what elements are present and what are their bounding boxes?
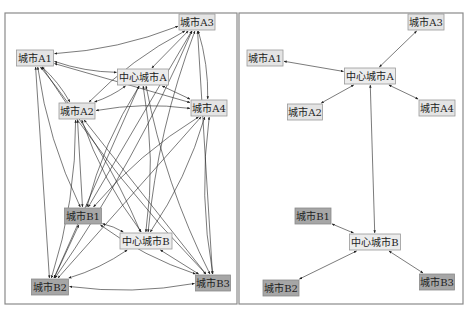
node-label: 城市A1 [248,52,282,64]
node-label: 城市A3 [409,16,443,28]
node-a2: 城市A2 [288,104,323,120]
edge-A3-B3 [198,31,213,274]
node-a1: 城市A1 [247,50,283,66]
node-label: 城市B3 [420,276,454,288]
edge-B1-B3 [100,225,195,274]
node-label: 城市A4 [420,102,454,114]
node-label: 城市B1 [296,210,330,222]
node-label: 城市B2 [33,281,67,293]
node-b2: 城市B2 [263,280,299,296]
edge-CA-A2 [94,86,125,102]
node-b2: 城市B2 [32,279,69,295]
edge-A1-B2 [36,67,50,278]
node-label: 城市B3 [196,277,230,289]
edge-CA-A4 [162,86,190,99]
node-cb: 中心城市B [120,233,172,249]
edge-B2-B3 [70,283,195,290]
node-cb: 中心城市B [350,234,401,250]
node-b3: 城市B3 [420,274,455,290]
node-label: 城市B2 [264,282,298,294]
node-ca: 中心城市A [118,69,169,85]
node-label: 城市A2 [60,105,94,117]
edge-CA-A2 [321,85,354,103]
node-b1: 城市B1 [65,208,102,224]
edge-A4-B2 [58,117,201,278]
edge-CA-CB [370,85,374,233]
edge-A3-CA [152,31,188,68]
edge-A1-A2 [42,67,70,102]
node-a3: 城市A3 [408,14,444,30]
node-ca: 中心城市A [345,68,396,84]
edge-A2-A4 [96,106,190,111]
node-a4: 城市A4 [191,100,227,116]
edge-CB-B3 [389,251,423,273]
edge-B1-B2 [54,225,79,278]
edge-A2-B1 [78,120,83,207]
edge-CB-B1 [332,224,354,233]
edge-A4-B3 [205,117,213,274]
edge-A3-B1 [88,31,191,207]
node-label: 城市A2 [288,106,322,118]
node-label: 中心城市B [122,235,169,247]
edge-CA-CB [143,86,150,232]
node-label: 城市A3 [180,16,214,28]
edge-CB-B3 [160,250,198,274]
node-a4: 城市A4 [419,100,455,116]
node-label: 中心城市A [119,71,167,83]
node-a3: 城市A3 [179,14,215,30]
node-label: 中心城市A [346,70,394,82]
left-panel-edges [36,26,213,290]
node-label: 城市A4 [192,102,226,114]
edge-A1-CA [55,61,117,72]
node-b1: 城市B1 [295,208,331,224]
network-diagram: 城市A3城市A1中心城市A城市A2城市A4城市B1中心城市B城市B2城市B3 城… [0,0,468,309]
edge-A4-CB [150,117,204,232]
node-label: 中心城市B [351,236,398,248]
edge-CA-A3 [379,31,416,67]
edge-A3-A1 [55,26,179,53]
edge-CA-A4 [389,85,418,99]
edge-CA-A1 [284,61,344,71]
edge-CB-B2 [69,250,127,278]
edge-CB-B2 [299,251,356,279]
edge-B1-CB [103,224,124,232]
node-a2: 城市A2 [59,103,95,119]
edge-A1-B1 [38,67,81,207]
edge-A1-CB [40,67,140,232]
node-a1: 城市A1 [17,50,54,66]
node-label: 城市A1 [18,52,52,64]
node-b3: 城市B3 [196,275,231,291]
node-label: 城市B1 [66,210,100,222]
